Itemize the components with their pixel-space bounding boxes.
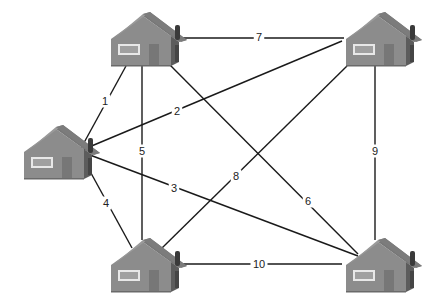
edge-H1-H5 [168,63,358,254]
edges [80,38,375,264]
edge-H4-H2 [162,66,347,248]
edge-weight-label: 10 [253,258,265,270]
house-left-icon [20,125,100,180]
edge-weight-label: 5 [139,145,145,157]
edge-weight-label: 1 [102,95,108,107]
house-top-right-icon [342,12,422,67]
houses [20,12,422,293]
house-top-left-icon [107,12,187,67]
edge-weight-label: 7 [256,31,262,43]
house-bottom-left-icon [107,238,187,293]
house-bottom-right-icon [342,238,422,293]
edge-weight-label: 8 [233,170,239,182]
edge-weight-label: 4 [103,197,109,209]
edge-weight-label: 6 [305,195,311,207]
edge-H3-H1 [80,66,126,150]
edge-weight-label: 9 [372,145,378,157]
edge-weight-label: 3 [171,182,177,194]
edge-weight-label: 2 [174,105,180,117]
network-diagram: 12345678910 [0,0,422,302]
edge-H3-H5 [82,152,358,256]
